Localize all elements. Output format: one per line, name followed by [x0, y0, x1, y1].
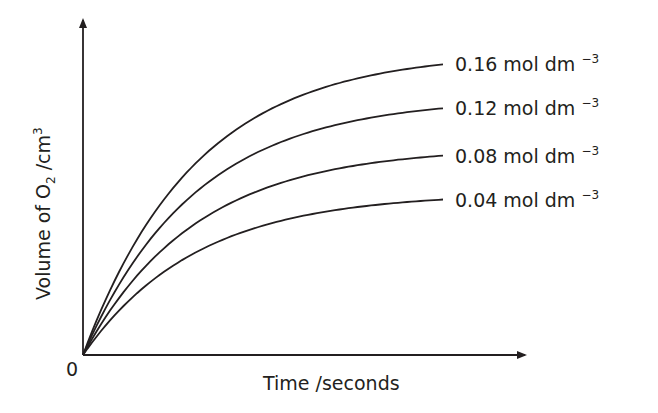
curves-group [83, 64, 443, 355]
series-label-0-16: 0.16 mol dm −3 [455, 52, 599, 75]
y-axis-label: Volume of O2 /cm3 [31, 127, 58, 300]
curve-0-12 [83, 108, 443, 355]
series-label-0-12: 0.12 mol dm −3 [455, 96, 599, 119]
series-label-0-04: 0.04 mol dm −3 [455, 188, 599, 211]
origin-label: 0 [66, 358, 78, 380]
series-label-0-08: 0.08 mol dm −3 [455, 144, 599, 167]
curve-0-04 [83, 200, 443, 356]
curve-0-16 [83, 64, 443, 355]
chart-canvas: 0.16 mol dm −30.12 mol dm −30.08 mol dm … [0, 0, 658, 413]
series-labels: 0.16 mol dm −30.12 mol dm −30.08 mol dm … [455, 52, 599, 210]
curve-0-08 [83, 156, 443, 355]
x-axis-label: Time /seconds [262, 372, 400, 394]
